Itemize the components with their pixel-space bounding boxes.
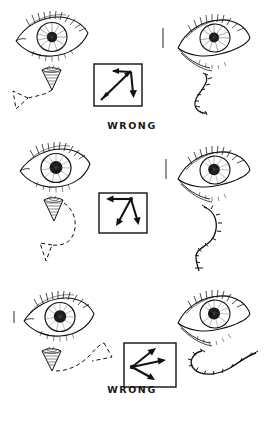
verdict-label-1: WRONG [0,120,264,131]
arrow-direction-box-1 [94,64,142,106]
left-eye-illustration [20,142,90,193]
dashed-triangle-path-left [13,90,52,109]
arrow-direction-box-3 [124,343,176,387]
panel-wrong-1: WRONG [0,0,264,142]
left-eye-illustration [16,11,88,62]
left-eye-illustration [14,291,94,342]
panel-wrong-2: WRONG [0,137,264,277]
cone-applicator-left [44,196,63,221]
ticked-s-curve-right [195,205,222,271]
right-eye-illustration [166,146,250,202]
right-eye-illustration [163,14,250,71]
dashed-sweep-path-left [56,343,112,371]
panel-right: RIGHT [0,283,264,424]
cone-applicator-left [42,347,61,371]
ticked-s-curve-right [195,73,212,115]
cone-applicator-left [42,66,61,90]
ticked-hook-curve-right [188,349,258,375]
arrow-direction-box-2 [99,193,147,233]
diagram-sheet: WRONG [0,0,264,424]
right-eye-illustration [178,290,250,346]
